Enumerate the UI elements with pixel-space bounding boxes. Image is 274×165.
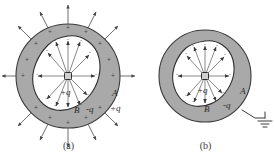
svg-text:-: - (204, 41, 206, 47)
svg-text:-: - (229, 71, 231, 77)
label-inner-shell-a: B (74, 105, 80, 115)
svg-text:-: - (89, 49, 91, 55)
svg-text:-: - (216, 97, 218, 103)
svg-text:+: + (84, 28, 88, 35)
caption-b: (b) (137, 140, 274, 151)
point-charge-square-icon-b (202, 73, 209, 80)
svg-text:-: - (80, 101, 82, 107)
svg-text:-: - (224, 51, 226, 57)
svg-text:-: - (80, 37, 82, 43)
label-outer-surface-charge-a: +q (110, 103, 121, 113)
label-outer-shell-b: A (239, 86, 246, 96)
svg-text:+: + (48, 114, 52, 121)
svg-text:-: - (67, 36, 69, 42)
svg-text:-: - (54, 37, 56, 43)
svg-text:-: - (87, 91, 89, 97)
label-center-charge-b: +q (197, 85, 208, 95)
svg-text:+: + (84, 114, 88, 121)
figure-panel-b: - - - - - - - - - - - - (137, 0, 274, 165)
point-charge-a (65, 73, 72, 80)
point-charge-square-icon-a (65, 73, 72, 80)
svg-text:-: - (192, 98, 194, 104)
svg-text:-: - (54, 102, 56, 108)
svg-text:+: + (66, 119, 70, 126)
svg-text:+: + (98, 104, 102, 111)
svg-text:+: + (98, 40, 102, 47)
svg-text:-: - (45, 95, 47, 101)
label-outer-shell-a: A (111, 88, 118, 98)
svg-text:+: + (34, 104, 38, 111)
svg-text:-: - (185, 92, 187, 98)
label-inner-shell-b: B (204, 104, 210, 114)
figure-panel-a: + + + + + + + + + + + + + + (0, 0, 137, 165)
label-center-charge-a: +q (60, 87, 71, 97)
label-inner-surface-charge-b: -q (223, 100, 231, 110)
svg-text:-: - (67, 103, 69, 109)
svg-text:-: - (222, 89, 224, 95)
svg-text:-: - (192, 42, 194, 48)
svg-text:+: + (66, 24, 70, 31)
svg-text:+: + (34, 40, 38, 47)
svg-text:-: - (46, 47, 48, 53)
svg-text:-: - (36, 71, 38, 77)
svg-text:+: + (111, 72, 115, 79)
svg-text:-: - (216, 42, 218, 48)
svg-text:+: + (48, 28, 52, 35)
svg-text:-: - (176, 71, 178, 77)
point-charge-b (202, 73, 209, 80)
figure-container: + + + + + + + + + + + + + + (0, 0, 274, 165)
svg-text:+: + (21, 72, 25, 79)
label-inner-surface-charge-a: -q (86, 104, 94, 114)
svg-text:-: - (185, 50, 187, 56)
svg-text:+: + (107, 56, 111, 63)
svg-text:-: - (95, 71, 97, 77)
caption-a: (a) (0, 140, 137, 151)
ground-symbol-b (242, 110, 272, 127)
svg-text:+: + (25, 56, 29, 63)
